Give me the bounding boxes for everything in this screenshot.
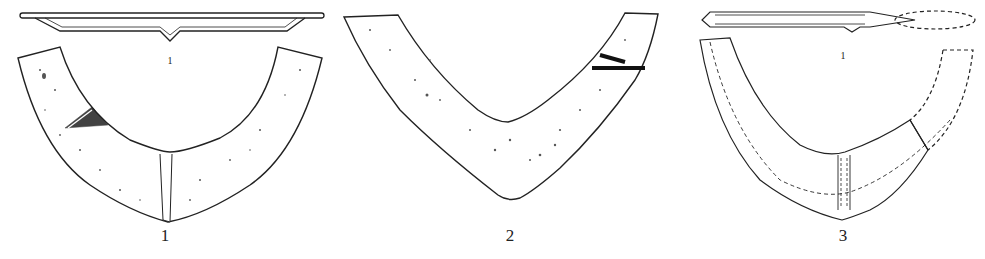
artifact-1-number: 1: [155, 226, 175, 246]
artifact-1-body: [18, 47, 322, 222]
artifact-1-section-label: 1: [160, 55, 180, 66]
artifact-3-body: [700, 38, 973, 220]
artifact-1-drawing: [0, 0, 330, 259]
artifact-3-cross-section: [702, 11, 975, 32]
artifact-2: 2: [330, 0, 660, 259]
artifact-2-body: [344, 13, 658, 199]
artifact-2-drawing: [330, 0, 660, 259]
artifact-2-number: 2: [500, 226, 520, 246]
artifact-3: 1 3: [660, 0, 985, 259]
artifact-3-number: 3: [833, 226, 853, 246]
artifact-3-drawing: [660, 0, 985, 259]
artifact-1-cross-section: [20, 13, 324, 41]
artifact-1: 1 1: [0, 0, 330, 259]
artifact-3-section-label: 1: [833, 50, 853, 61]
